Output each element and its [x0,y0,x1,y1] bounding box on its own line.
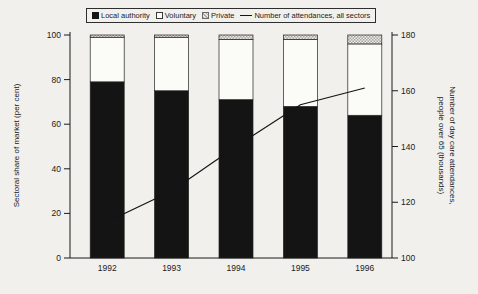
right-axis-ticks: 100120140160180 [392,30,415,263]
x-tick-label: 1993 [162,263,181,273]
legend-item-attendances: Number of attendances, all sectors [240,11,370,20]
left-tick-label: 100 [47,30,61,40]
bar-local-authority-1995 [283,106,317,258]
bar-voluntary-1992 [90,37,124,82]
right-tick-label: 120 [401,197,415,207]
x-tick-label: 1992 [98,263,117,273]
bar-local-authority-1996 [348,115,382,258]
right-axis-title-line1: Number of day care attendances, [448,86,457,204]
figure: Local authority Voluntary Private Number… [0,0,478,294]
right-tick-label: 100 [401,253,415,263]
legend-item-local-authority: Local authority [92,11,150,20]
legend-item-voluntary: Voluntary [156,11,196,20]
left-tick-label: 60 [52,119,62,129]
left-axis-ticks: 020406080100 [47,30,70,263]
bar-private-1992 [90,35,124,37]
bar-local-authority-1993 [155,91,189,258]
left-axis-title: Sectoral share of market (per cent) [12,26,21,266]
right-tick-label: 180 [401,30,415,40]
bar-local-authority-1992 [90,82,124,258]
x-tick-label: 1995 [291,263,310,273]
bar-private-1993 [155,35,189,37]
solid-bar-swatch-icon [92,12,99,19]
line-series-swatch-icon [240,15,252,16]
outline-bar-swatch-icon [156,12,163,19]
bar-private-1994 [219,35,253,39]
chart-legend: Local authority Voluntary Private Number… [86,8,376,23]
left-tick-label: 0 [56,253,61,263]
x-axis-labels: 19921993199419951996 [98,263,375,273]
bar-local-authority-1994 [219,100,253,258]
left-tick-label: 80 [52,75,62,85]
right-axis-title: Number of day care attendances, people o… [436,41,457,251]
left-tick-label: 40 [52,164,62,174]
legend-item-private: Private [202,11,234,20]
x-tick-label: 1996 [355,263,374,273]
chart-canvas: 0204060801001001201401601801992199319941… [0,0,478,294]
legend-label-attendances: Number of attendances, all sectors [254,11,370,20]
left-tick-label: 20 [52,208,62,218]
bar-voluntary-1995 [283,39,317,106]
legend-label-voluntary: Voluntary [165,11,196,20]
legend-label-private: Private [211,11,234,20]
bar-voluntary-1994 [219,39,253,99]
legend-label-local-authority: Local authority [101,11,150,20]
right-tick-label: 160 [401,86,415,96]
right-tick-label: 140 [401,142,415,152]
x-tick-label: 1994 [227,263,246,273]
right-axis-title-line2: people over 65 (thousands) [437,97,446,194]
hatched-bar-swatch-icon [202,12,209,19]
bar-private-1995 [283,35,317,39]
bar-private-1996 [348,35,382,44]
bar-voluntary-1993 [155,37,189,91]
bar-voluntary-1996 [348,44,382,115]
